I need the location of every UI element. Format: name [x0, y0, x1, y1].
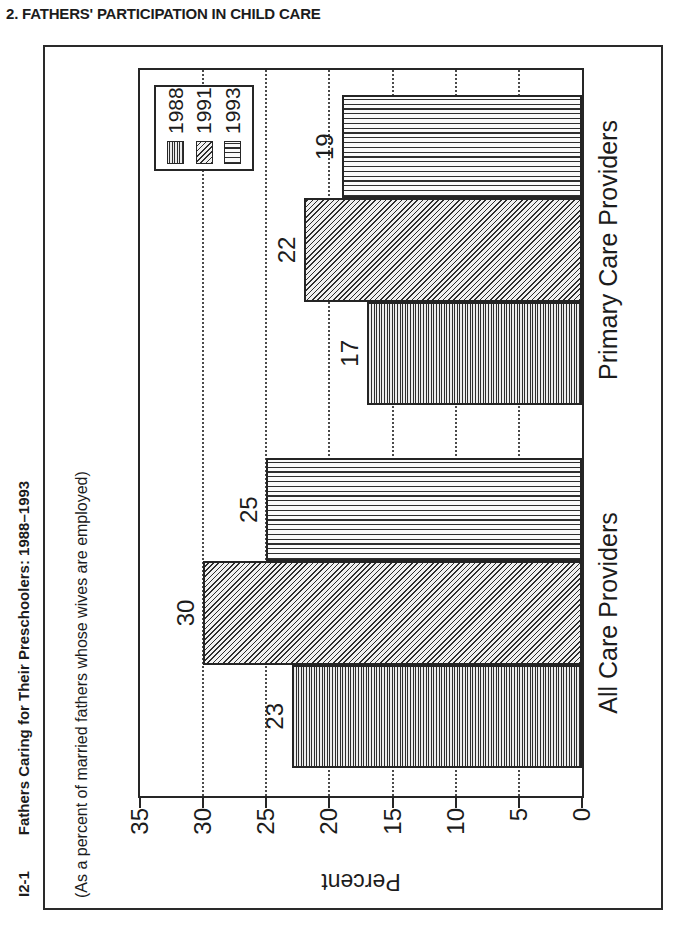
figure-title-text: Fathers Caring for Their Preschoolers: 1… — [15, 481, 32, 835]
bar-slot: 17 — [140, 302, 582, 405]
bar-value-label: 30 — [173, 600, 199, 627]
y-tick-label: 0 — [569, 808, 595, 860]
y-tick-label: 20 — [316, 808, 342, 860]
y-axis-tick — [581, 798, 583, 808]
rotated-figure-panel: I2-1Fathers Caring for Their Preschooler… — [13, 45, 663, 910]
legend-label-1988: 1988 — [165, 87, 187, 134]
y-tick-label: 35 — [127, 808, 153, 860]
figure-title: I2-1Fathers Caring for Their Preschooler… — [15, 481, 32, 897]
figure-subtitle: (As a percent of married fathers whose w… — [73, 471, 91, 898]
bar-1991-all-care — [203, 561, 582, 664]
y-tick-label: 30 — [190, 808, 216, 860]
category-label-primary-care-providers: Primary Care Providers — [594, 120, 623, 380]
bar-value-label: 22 — [274, 237, 300, 264]
page-header: 2. FATHERS' PARTICIPATION IN CHILD CARE — [6, 5, 321, 22]
y-axis-tick — [202, 798, 204, 808]
y-tick-label: 15 — [380, 808, 406, 860]
legend-label-1991: 1991 — [193, 87, 215, 134]
y-tick-label: 10 — [443, 808, 469, 860]
legend-swatch-1988 — [167, 141, 184, 164]
y-axis-title: Percent — [321, 868, 400, 895]
y-axis-tick — [518, 798, 520, 808]
figure-id: I2-1 — [15, 871, 32, 897]
legend-item-1993: 1993 — [222, 92, 244, 164]
y-axis-tick — [139, 798, 141, 808]
y-axis-tick — [392, 798, 394, 808]
y-tick-label: 5 — [506, 808, 532, 860]
bar-slot: 22 — [140, 198, 582, 301]
bar-slot: 25 — [140, 458, 582, 561]
legend-item-1991: 1991 — [193, 92, 215, 164]
bar-value-label: 19 — [312, 133, 338, 160]
legend-swatch-1991 — [196, 141, 213, 164]
y-axis-tick — [328, 798, 330, 808]
bar-1988-all-care — [292, 665, 582, 768]
bar-1993-primary-care — [342, 95, 582, 198]
y-axis-tick — [455, 798, 457, 808]
bar-value-label: 23 — [262, 703, 288, 730]
figure-border-box: (As a percent of married fathers whose w… — [43, 45, 663, 910]
legend-item-1988: 1988 — [165, 92, 187, 164]
bar-1993-all-care — [266, 458, 582, 561]
bar-group-all-care-providers: 23 30 25 — [140, 458, 582, 768]
bar-value-label: 17 — [337, 340, 363, 367]
bar-value-label: 25 — [236, 496, 262, 523]
bar-1988-primary-care — [367, 302, 582, 405]
legend: 1988 1991 1993 — [154, 85, 254, 171]
bar-slot: 23 — [140, 665, 582, 768]
document-page: 2. FATHERS' PARTICIPATION IN CHILD CARE … — [0, 0, 685, 931]
legend-swatch-1993 — [224, 141, 241, 164]
bar-slot: 30 — [140, 561, 582, 664]
y-tick-label: 25 — [253, 808, 279, 860]
plot-area: 23 30 25 17 — [138, 68, 584, 798]
category-label-all-care-providers: All Care Providers — [594, 512, 623, 713]
y-axis-tick — [265, 798, 267, 808]
bar-1991-primary-care — [304, 198, 582, 301]
legend-label-1993: 1993 — [222, 87, 244, 134]
